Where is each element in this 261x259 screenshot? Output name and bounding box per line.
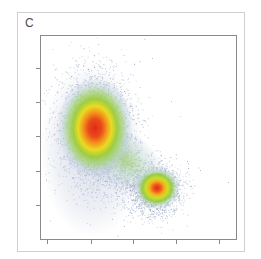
population-1-density xyxy=(57,78,133,178)
density-scatter-plot xyxy=(0,0,261,259)
y-axis-ticks xyxy=(36,69,40,206)
population-2-density xyxy=(133,166,181,210)
x-axis-ticks xyxy=(48,240,220,244)
density-layer xyxy=(40,38,229,239)
